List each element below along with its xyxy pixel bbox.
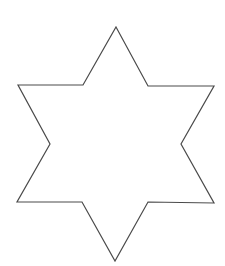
six-pointed-star-shape (17, 27, 214, 261)
star-diagram (0, 0, 225, 266)
